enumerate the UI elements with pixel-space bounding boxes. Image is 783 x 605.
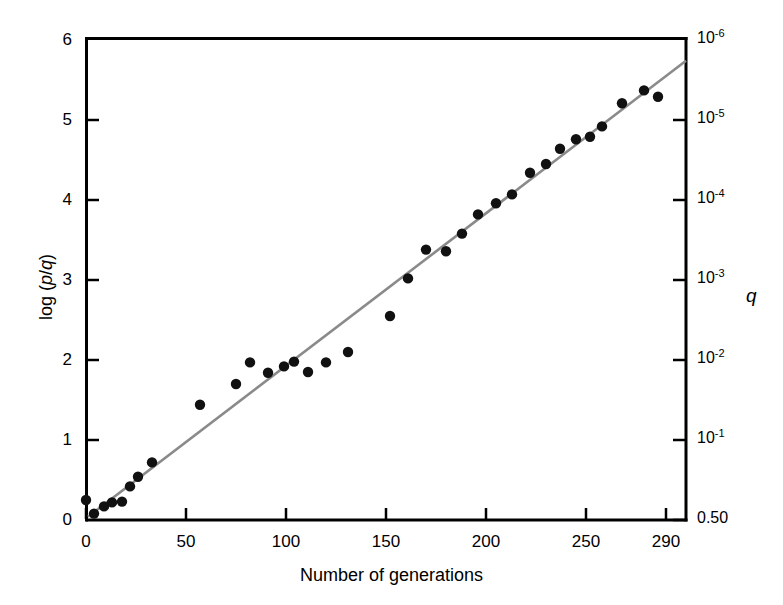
data-point: [421, 244, 431, 254]
data-point: [525, 168, 535, 178]
plot-canvas: [0, 0, 783, 605]
data-point: [507, 189, 517, 199]
data-point: [571, 134, 581, 144]
regression-line: [88, 61, 686, 517]
data-point: [639, 85, 649, 95]
data-point: [117, 496, 127, 506]
x-tick-label-4: 200: [456, 533, 516, 550]
x-tick-label-2: 100: [256, 533, 316, 550]
data-point: [457, 228, 467, 238]
x-axis-title: Number of generations: [0, 566, 783, 584]
figure-container: 050100150200250290 0123456 0.5010-110-21…: [0, 0, 783, 605]
data-point: [473, 209, 483, 219]
data-point: [585, 132, 595, 142]
data-point: [279, 361, 289, 371]
data-point: [147, 457, 157, 467]
data-point: [491, 198, 501, 208]
data-point: [133, 472, 143, 482]
y2-tick-label-0: 0.50: [697, 510, 728, 526]
y2-tick-label-4: 10-4: [697, 190, 725, 206]
x-tick-label-6: 290: [636, 533, 696, 550]
data-point-group: [81, 85, 663, 519]
data-point: [653, 92, 663, 102]
data-point: [343, 347, 353, 357]
y2-tick-label-6: 10-6: [697, 30, 725, 46]
data-point: [245, 357, 255, 367]
data-point: [541, 159, 551, 169]
y-axis-title: log (p/q): [37, 207, 55, 367]
data-point: [81, 495, 91, 505]
data-point: [617, 98, 627, 108]
x-tick-label-5: 250: [556, 533, 616, 550]
y2-tick-label-2: 10-2: [697, 350, 725, 366]
y2-tick-label-3: 10-3: [697, 270, 725, 286]
x-tick-label-1: 50: [156, 533, 216, 550]
y-tick-label-4: 4: [44, 191, 72, 208]
data-point: [89, 508, 99, 518]
data-point: [441, 246, 451, 256]
tick-marks: [86, 120, 685, 520]
y-tick-label-0: 0: [44, 511, 72, 528]
y2-tick-label-5: 10-5: [697, 110, 725, 126]
y-tick-label-1: 1: [44, 431, 72, 448]
data-point: [107, 497, 117, 507]
y-tick-label-5: 5: [44, 111, 72, 128]
data-point: [303, 367, 313, 377]
data-point: [597, 121, 607, 131]
data-point: [195, 400, 205, 410]
x-tick-label-0: 0: [56, 533, 116, 550]
data-point: [385, 311, 395, 321]
x-tick-label-3: 150: [356, 533, 416, 550]
y2-axis-title: q: [746, 286, 757, 305]
data-point: [289, 356, 299, 366]
y2-tick-label-1: 10-1: [697, 430, 725, 446]
data-point: [263, 368, 273, 378]
data-point: [321, 357, 331, 367]
data-point: [125, 481, 135, 491]
data-point: [231, 379, 241, 389]
y-tick-label-6: 6: [44, 31, 72, 48]
data-point: [555, 144, 565, 154]
data-point: [403, 273, 413, 283]
